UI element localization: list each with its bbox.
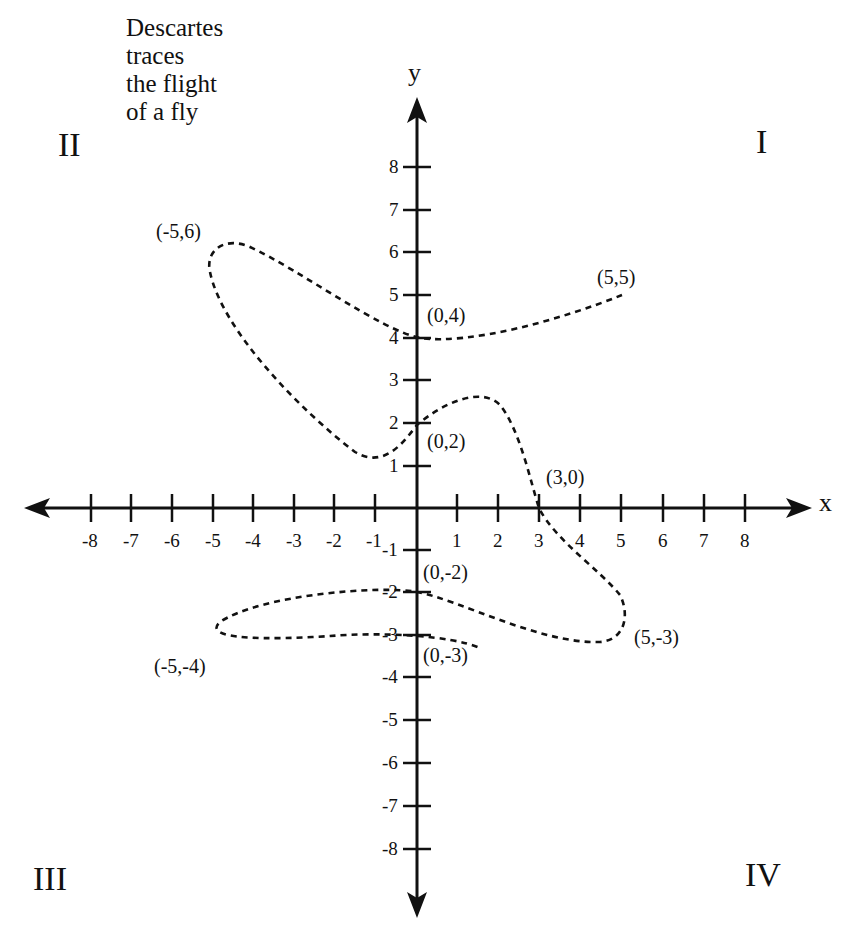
x-tick-label: 1	[452, 531, 462, 550]
x-axis-label: x	[819, 490, 832, 516]
y-tick-label: 2	[389, 413, 399, 432]
y-tick-label: -7	[382, 796, 398, 815]
y-tick-label: -4	[382, 667, 398, 686]
quadrant-label-i: I	[756, 125, 767, 159]
x-tick-label: -4	[245, 531, 261, 550]
x-tick-label: -5	[205, 531, 221, 550]
y-tick-label: 8	[389, 157, 399, 176]
y-tick-label: -3	[382, 625, 398, 644]
x-tick-label: 2	[493, 531, 503, 550]
coordinate-plane-figure: Descartes traces the flight of a fly I I…	[0, 0, 858, 935]
x-tick-label: 8	[740, 531, 750, 550]
y-tick-label: -1	[382, 540, 398, 559]
y-axis-label: y	[408, 60, 421, 86]
y-tick-label: 1	[389, 456, 399, 475]
x-tick-label: 7	[699, 531, 709, 550]
x-tick-label: -2	[326, 531, 342, 550]
y-tick-label: 3	[389, 370, 399, 389]
y-tick-label: 6	[389, 242, 399, 261]
quadrant-label-iii: III	[33, 862, 67, 896]
point-label: (5,-3)	[634, 627, 679, 647]
x-tick-label: -7	[123, 531, 139, 550]
title-line: the flight	[126, 70, 223, 98]
x-tick-label: -8	[82, 531, 98, 550]
x-tick-label: -1	[366, 531, 382, 550]
y-tick-label: -6	[382, 753, 398, 772]
y-tick-label: -5	[382, 710, 398, 729]
point-label: (-5,6)	[156, 221, 201, 241]
x-tick-label: 3	[534, 531, 544, 550]
y-tick-label: -2	[382, 582, 398, 601]
title-line: traces	[126, 42, 223, 70]
x-tick-label: 6	[658, 531, 668, 550]
y-tick-label: 4	[389, 328, 399, 347]
y-tick-label: 5	[389, 285, 399, 304]
y-tick-label: -8	[382, 839, 398, 858]
point-label: (0,-2)	[423, 562, 468, 582]
point-label: (0,-3)	[423, 645, 468, 665]
x-tick-label: -6	[164, 531, 180, 550]
point-label: (3,0)	[546, 467, 584, 487]
x-tick-label: -3	[286, 531, 302, 550]
point-label: (0,2)	[427, 431, 465, 451]
point-label: (-5,-4)	[154, 656, 206, 676]
quadrant-label-ii: II	[58, 128, 81, 162]
point-label: (0,4)	[427, 305, 465, 325]
point-label: (5,5)	[597, 267, 635, 287]
quadrant-label-iv: IV	[745, 858, 781, 892]
x-tick-label: 4	[575, 531, 585, 550]
title-line: Descartes	[126, 14, 223, 42]
diagram-title: Descartes traces the flight of a fly	[126, 14, 223, 126]
title-line: of a fly	[126, 98, 223, 126]
y-tick-label: 7	[389, 200, 399, 219]
x-tick-label: 5	[616, 531, 626, 550]
